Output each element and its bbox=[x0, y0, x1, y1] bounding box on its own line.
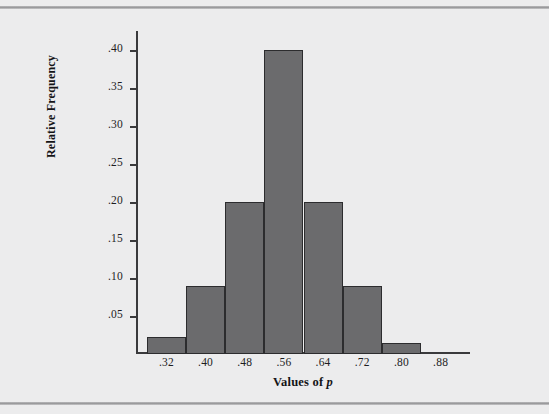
x-tick-label: .72 bbox=[355, 356, 370, 368]
x-axis-title: Values of p bbox=[136, 375, 470, 390]
histogram-bar bbox=[382, 343, 421, 354]
histogram-figure: .05.10.15.20.25.30.35.40 .32.40.48.56.64… bbox=[0, 0, 549, 414]
y-tick: .40 bbox=[130, 50, 137, 52]
bottom-rule bbox=[0, 402, 549, 405]
x-tick-label: .80 bbox=[394, 356, 409, 368]
y-tick: .20 bbox=[130, 202, 137, 204]
x-axis-title-variable: p bbox=[327, 375, 333, 389]
y-tick: .35 bbox=[130, 88, 137, 90]
x-tick-label: .48 bbox=[237, 356, 252, 368]
y-tick: .25 bbox=[130, 164, 137, 166]
y-tick-label: .20 bbox=[108, 194, 130, 206]
y-tick-label: .40 bbox=[108, 42, 130, 54]
y-tick: .30 bbox=[130, 126, 137, 128]
y-tick-label: .30 bbox=[108, 118, 130, 130]
y-tick-label: .05 bbox=[108, 308, 130, 320]
x-tick-label: .40 bbox=[198, 356, 213, 368]
y-tick: .15 bbox=[130, 240, 137, 242]
y-tick-label: .10 bbox=[108, 270, 130, 282]
histogram-bar bbox=[264, 50, 303, 354]
y-tick-label: .25 bbox=[108, 156, 130, 168]
x-tick-label: .32 bbox=[159, 356, 174, 368]
y-tick-label: .35 bbox=[108, 80, 130, 92]
y-tick: .10 bbox=[130, 278, 137, 280]
histogram-bar bbox=[147, 337, 186, 354]
histogram-bar bbox=[186, 286, 225, 354]
histogram-bar bbox=[343, 286, 382, 354]
x-axis-title-text: Values of bbox=[273, 375, 323, 389]
y-tick: .05 bbox=[130, 316, 137, 318]
histogram-bar bbox=[225, 202, 264, 354]
plot-area: .05.10.15.20.25.30.35.40 .32.40.48.56.64… bbox=[0, 9, 549, 402]
y-tick-label: .15 bbox=[108, 232, 130, 244]
x-tick-label: .88 bbox=[433, 356, 448, 368]
y-axis-title: Relative Frequency bbox=[44, 12, 59, 202]
histogram-bars bbox=[137, 31, 470, 354]
x-tick-label: .64 bbox=[316, 356, 331, 368]
histogram-bar bbox=[304, 202, 343, 354]
x-tick-label: .56 bbox=[276, 356, 291, 368]
